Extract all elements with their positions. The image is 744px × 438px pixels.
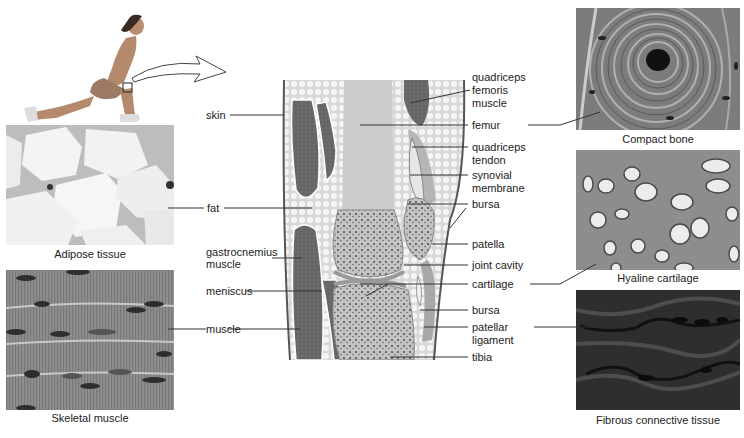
label-gastrocnemius-muscle-line2: muscle xyxy=(206,258,241,270)
label-bursa-upper: bursa xyxy=(472,198,500,210)
label-quadriceps-femoris-line3: muscle xyxy=(472,97,507,109)
hyaline-cartilage-caption: Hyaline cartilage xyxy=(576,272,740,284)
label-gastrocnemius-muscle-line1: gastrocnemius xyxy=(206,246,278,258)
zoom-arrow-icon xyxy=(130,50,230,90)
label-cartilage: cartilage xyxy=(472,278,514,290)
label-femur: femur xyxy=(472,119,500,131)
label-skin: skin xyxy=(206,109,226,121)
label-muscle: muscle xyxy=(206,323,241,335)
label-joint-cavity: joint cavity xyxy=(472,259,523,271)
skeletal-muscle-caption: Skeletal muscle xyxy=(6,412,174,424)
label-bursa-lower: bursa xyxy=(472,304,500,316)
label-meniscus: meniscus xyxy=(206,285,252,297)
compact-bone-caption: Compact bone xyxy=(576,133,740,145)
knee-cross-section xyxy=(282,80,472,380)
adipose-tissue-caption: Adipose tissue xyxy=(6,248,174,260)
label-patella: patella xyxy=(472,238,504,250)
label-quadriceps-femoris-line2: femoris xyxy=(472,84,508,96)
fibrous-connective-tissue-photo xyxy=(576,290,740,410)
label-quadriceps-tendon-line1: quadriceps xyxy=(472,141,526,153)
label-synovial-membrane-line2: membrane xyxy=(472,182,525,194)
adipose-tissue-photo xyxy=(6,125,174,245)
label-tibia: tibia xyxy=(472,351,492,363)
hyaline-cartilage-photo xyxy=(576,150,740,270)
label-patellar-ligament-line1: patellar xyxy=(472,321,508,333)
label-quadriceps-femoris-line1: quadriceps xyxy=(472,71,526,83)
label-fat: fat xyxy=(207,202,219,214)
compact-bone-photo xyxy=(576,8,740,130)
label-synovial-membrane-line1: synovial xyxy=(472,169,512,181)
label-quadriceps-tendon-line2: tendon xyxy=(472,154,506,166)
label-patellar-ligament-line2: ligament xyxy=(472,334,514,346)
fibrous-connective-tissue-caption: Fibrous connective tissue xyxy=(576,414,740,426)
skeletal-muscle-photo xyxy=(6,270,174,410)
